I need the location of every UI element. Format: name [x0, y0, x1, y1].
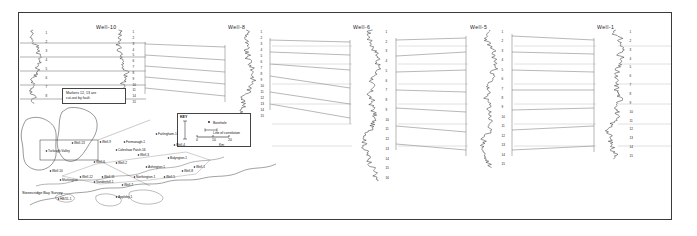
map-well-label: Appleby-1: [118, 194, 132, 198]
map-well-label: Well-12: [82, 174, 93, 178]
map-well-label: Ashington-1: [148, 164, 165, 168]
map-well-label: Turlough Valley: [48, 148, 70, 152]
map-well-label: Vandenhill-1: [96, 179, 113, 183]
map-well-label: HB/11-1: [60, 196, 71, 200]
map-well-label: Farlingham-1: [158, 131, 177, 135]
map-well-label: Well-3: [140, 152, 149, 156]
map-well-label: Well-10: [52, 168, 63, 172]
map-well-label: Well-7: [124, 182, 133, 186]
map-well-label: Well-13: [74, 140, 85, 144]
map-well-label: Markington: [62, 177, 78, 181]
map-well-label: Well-4: [176, 142, 185, 146]
map-well-label: Well-2: [118, 160, 127, 164]
map-well-label: Balyngton-1: [170, 155, 187, 159]
map-well-label: Coleshaw Patch-16: [118, 147, 146, 151]
map-well-label: Well-9: [102, 139, 111, 143]
inset-location-map: [0, 0, 697, 236]
map-well-label: Well-8: [184, 168, 193, 172]
map-survey-title: Stonecridge Bay Survey: [22, 191, 63, 196]
map-well-label: Well-5: [166, 174, 175, 178]
map-well-label: Well-1: [196, 164, 205, 168]
map-well-label: Well-6: [96, 159, 105, 163]
map-well-label: Fermanagh-1: [126, 139, 145, 143]
well-log-correlation-figure: 1234567891011141512345678910111213141512…: [0, 0, 697, 236]
map-well-label: Well-11: [104, 174, 115, 178]
map-well-label: Northington-1: [136, 174, 155, 178]
